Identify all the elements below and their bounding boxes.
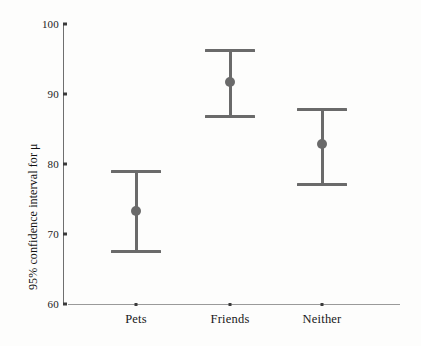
confidence-interval-chart: 95% confidence interval for μ 6070809010… (0, 0, 421, 346)
y-axis-tick-label: 70 (19, 228, 59, 240)
y-axis-tick (63, 23, 67, 26)
x-axis-tick-label-pets: Pets (125, 312, 147, 327)
y-axis-tick (63, 233, 67, 236)
mean-marker (131, 206, 141, 216)
x-axis-tick (135, 303, 138, 306)
x-axis-tick-label-friends: Friends (211, 312, 250, 327)
y-axis-tick-label: 80 (19, 158, 59, 170)
y-axis-tick (63, 303, 67, 306)
y-axis-title: 95% confidence interval for μ (26, 0, 41, 290)
x-axis-line (68, 304, 400, 305)
mean-marker (225, 77, 235, 87)
mean-marker (317, 139, 327, 149)
x-axis-tick (321, 303, 324, 306)
y-axis-tick-label: 60 (19, 298, 59, 310)
y-axis-tick-label: 100 (19, 18, 59, 30)
y-axis-tick-label: 90 (19, 88, 59, 100)
x-axis-tick-label-neither: Neither (303, 312, 342, 327)
y-axis-tick (63, 163, 67, 166)
x-axis-tick (229, 303, 232, 306)
y-axis-tick (63, 93, 67, 96)
